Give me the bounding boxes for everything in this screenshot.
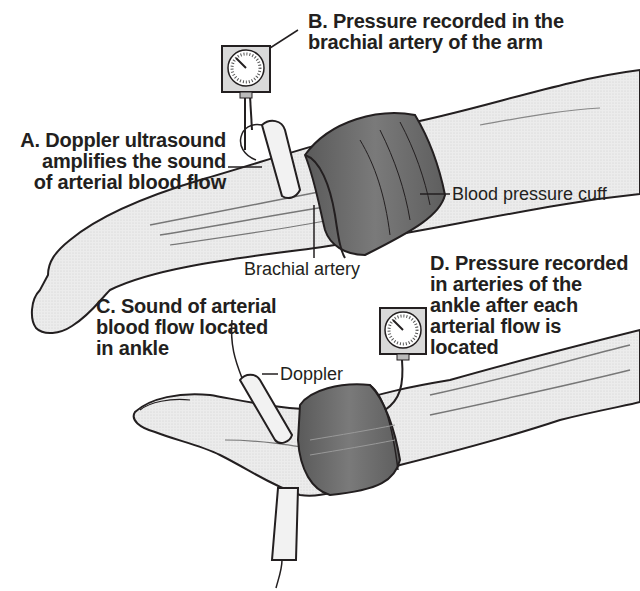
callout-doppler: Doppler bbox=[280, 364, 343, 384]
callout-cuff: Blood pressure cuff bbox=[452, 184, 607, 204]
label-d-line: D. Pressure recorded bbox=[430, 253, 628, 274]
label-c: C. Sound of arterial blood flow located … bbox=[96, 296, 276, 359]
label-c-line: blood flow located bbox=[96, 317, 276, 338]
label-d-line: in arteries of the bbox=[430, 274, 628, 295]
label-d: D. Pressure recorded in arteries of the … bbox=[430, 253, 628, 358]
label-a-line: amplifies the sound bbox=[8, 151, 226, 172]
doppler-probe-icon bbox=[272, 488, 298, 588]
label-b-line: brachial artery of the arm bbox=[308, 32, 564, 53]
label-a-line: of arterial blood flow bbox=[8, 172, 226, 193]
label-d-line: ankle after each bbox=[430, 295, 628, 316]
label-a-line: A. Doppler ultrasound bbox=[8, 130, 226, 151]
pressure-gauge-icon bbox=[222, 46, 270, 150]
label-b-line: B. Pressure recorded in the bbox=[308, 11, 564, 32]
label-d-line: located bbox=[430, 337, 628, 358]
label-c-line: in ankle bbox=[96, 338, 276, 359]
callout-artery: Brachial artery bbox=[244, 259, 360, 279]
label-a: A. Doppler ultrasound amplifies the soun… bbox=[8, 130, 226, 193]
label-c-line: C. Sound of arterial bbox=[96, 296, 276, 317]
label-b: B. Pressure recorded in the brachial art… bbox=[308, 11, 564, 53]
label-d-line: arterial flow is bbox=[430, 316, 628, 337]
